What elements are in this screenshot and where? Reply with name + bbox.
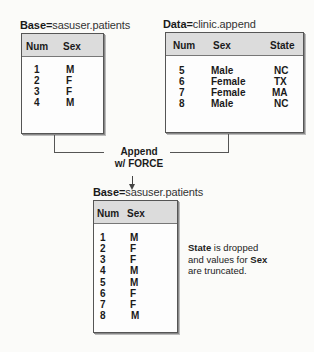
result-title-keyword: Base=: [93, 186, 125, 198]
cell-num: 3: [100, 254, 106, 265]
cell-num: 5: [179, 65, 185, 76]
cell-sex: Female: [211, 76, 245, 87]
cell-num: 2: [100, 243, 106, 254]
column-header-num: Num: [173, 40, 195, 51]
cell-sex: F: [66, 86, 72, 97]
cell-num: 7: [179, 87, 185, 98]
column-header-sex: Sex: [213, 40, 231, 51]
connector-right-horizontal: [170, 152, 229, 153]
connector-left-vertical: [54, 135, 55, 153]
base-title-keyword: Base=: [20, 19, 52, 31]
data-table-title: Data=clinic.append: [163, 18, 256, 30]
column-header-sex: Sex: [63, 41, 81, 52]
cell-sex: M: [130, 277, 138, 288]
cell-state: NC: [274, 98, 288, 109]
cell-num: 2: [34, 75, 40, 86]
column-header-num: Num: [97, 208, 119, 219]
base-table: Num Sex 1 M 2 F 3 F 4 M: [21, 33, 104, 134]
cell-num: 8: [179, 98, 185, 109]
cell-sex: F: [66, 75, 72, 86]
truncation-note: State is dropped and values for Sex are …: [188, 242, 298, 277]
connector-right-vertical: [228, 134, 229, 153]
column-header-state: State: [270, 40, 294, 51]
cell-sex: F: [130, 243, 136, 254]
cell-num: 1: [34, 64, 40, 75]
cell-state: MA: [272, 87, 288, 98]
base-table-header: Num Sex: [22, 34, 103, 57]
connector-left-horizontal: [54, 152, 104, 153]
cell-num: 5: [100, 277, 106, 288]
cell-sex: M: [66, 64, 74, 75]
cell-num: 6: [179, 76, 185, 87]
cell-sex: F: [130, 254, 136, 265]
data-title-value: clinic.append: [193, 18, 256, 30]
result-table-title: Base=sasuser.patients: [93, 186, 203, 198]
cell-num: 6: [100, 288, 106, 299]
cell-sex: M: [131, 310, 139, 321]
cell-num: 7: [100, 299, 106, 310]
cell-sex: F: [130, 299, 136, 310]
append-force-label: Append w/ FORCE: [108, 146, 170, 170]
cell-num: 4: [34, 97, 40, 108]
cell-sex: M: [130, 265, 138, 276]
data-table: Num Sex State 5 Male NC 6 Female TX 7 Fe…: [165, 32, 304, 133]
cell-num: 8: [100, 310, 106, 321]
cell-sex: Female: [211, 87, 245, 98]
note-text: is dropped: [211, 242, 258, 253]
cell-sex: Male: [211, 98, 233, 109]
base-table-title: Base=sasuser.patients: [20, 19, 130, 31]
append-label-line1: Append: [110, 146, 168, 158]
append-label-line2: w/ FORCE: [110, 158, 168, 170]
data-table-header: Num Sex State: [166, 33, 303, 56]
cell-sex: M: [130, 232, 138, 243]
cell-sex: Male: [211, 65, 233, 76]
result-title-value: sasuser.patients: [125, 186, 203, 198]
column-header-sex: Sex: [127, 208, 145, 219]
note-state-keyword: State: [188, 242, 211, 253]
base-title-value: sasuser.patients: [52, 19, 130, 31]
cell-num: 1: [100, 232, 106, 243]
result-table: Num Sex 1 M 2 F 3 F 4 M 5 M 6 F 7 F 8 M: [93, 200, 178, 333]
cell-num: 4: [100, 265, 106, 276]
cell-sex: F: [130, 288, 136, 299]
note-sex-keyword: Sex: [250, 254, 267, 265]
note-text: are truncated.: [188, 265, 247, 276]
data-title-keyword: Data=: [163, 18, 193, 30]
cell-num: 3: [34, 86, 40, 97]
result-table-header: Num Sex: [94, 201, 177, 224]
column-header-num: Num: [26, 41, 48, 52]
cell-state: NC: [274, 65, 288, 76]
cell-sex: M: [66, 97, 74, 108]
cell-state: TX: [274, 76, 287, 87]
note-text: and values for: [188, 254, 250, 265]
